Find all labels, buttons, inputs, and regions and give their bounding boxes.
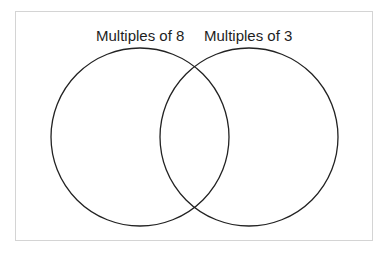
- set-label-multiples-of-8: Multiples of 8: [96, 27, 184, 44]
- set-circle-multiples-of-8: [51, 48, 229, 226]
- venn-diagram: Multiples of 8 Multiples of 3: [0, 0, 389, 255]
- set-label-multiples-of-3: Multiples of 3: [204, 27, 292, 44]
- set-circle-multiples-of-3: [160, 48, 338, 226]
